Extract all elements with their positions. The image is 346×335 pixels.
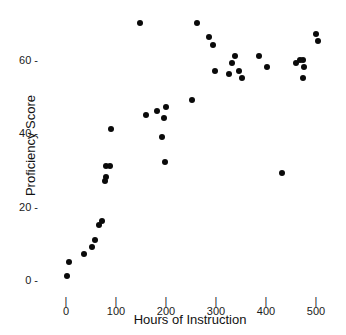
- data-point: [264, 64, 270, 70]
- data-point: [137, 20, 143, 26]
- data-point: [301, 64, 307, 70]
- data-point: [159, 134, 165, 140]
- y-tick-mark-icon: -: [34, 274, 38, 286]
- data-point: [194, 20, 200, 26]
- data-point: [162, 159, 168, 165]
- data-point: [92, 237, 98, 243]
- data-point: [163, 104, 169, 110]
- scatter-plot-figure: 0-20-40-60- |0|100|200|300|400|500 Hours…: [0, 0, 346, 335]
- data-point: [210, 42, 216, 48]
- data-point: [64, 273, 70, 279]
- data-point: [229, 60, 235, 66]
- data-point: [226, 71, 232, 77]
- data-point: [232, 53, 238, 59]
- data-point: [315, 38, 321, 44]
- data-point: [239, 75, 245, 81]
- data-point: [154, 108, 160, 114]
- y-axis-title: Proficiency Score: [23, 36, 38, 256]
- data-point: [313, 31, 319, 37]
- data-point: [81, 251, 87, 257]
- data-point: [66, 259, 72, 265]
- data-point: [206, 34, 212, 40]
- data-point: [89, 244, 95, 250]
- data-points-layer: [40, 6, 340, 290]
- data-point: [236, 68, 242, 74]
- data-point: [279, 170, 285, 176]
- data-point: [99, 218, 105, 224]
- data-point: [108, 126, 114, 132]
- y-tick-label: 0-: [25, 274, 38, 286]
- data-point: [189, 97, 195, 103]
- data-point: [300, 75, 306, 81]
- data-point: [107, 163, 113, 169]
- data-point: [212, 68, 218, 74]
- data-point: [103, 174, 109, 180]
- data-point: [300, 57, 306, 63]
- plot-panel: [40, 6, 340, 290]
- x-axis: |0|100|200|300|400|500: [0, 290, 346, 312]
- x-axis-title: Hours of Instruction: [40, 312, 340, 327]
- data-point: [256, 53, 262, 59]
- data-point: [161, 115, 167, 121]
- data-point: [143, 112, 149, 118]
